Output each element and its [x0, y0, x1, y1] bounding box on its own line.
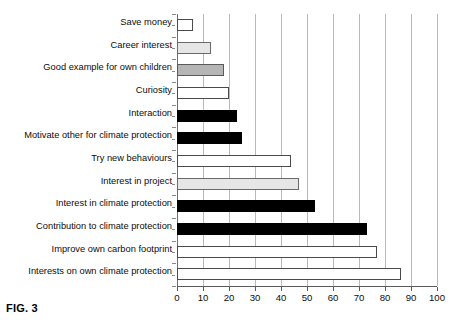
bar — [177, 42, 211, 54]
category-tick — [172, 14, 176, 15]
x-tick-80 — [385, 287, 386, 291]
x-tick-label-80: 80 — [380, 292, 391, 304]
category-minor-tick — [172, 139, 175, 140]
bar — [177, 178, 299, 190]
x-tick-50 — [307, 287, 308, 291]
x-tick-100 — [437, 287, 438, 291]
bar — [177, 246, 377, 258]
category-tick — [172, 127, 176, 128]
category-tick — [172, 173, 176, 174]
bar-row: Try new behaviours — [177, 150, 437, 173]
category-label: Interest in climate protection — [56, 197, 172, 210]
category-tick — [172, 195, 176, 196]
category-minor-tick — [172, 48, 175, 49]
bar-row: Interests on own climate protection — [177, 263, 437, 286]
x-tick-90 — [411, 287, 412, 291]
bar-row: Contribution to climate protection — [177, 218, 437, 241]
category-label: Career interest — [111, 39, 173, 52]
bar — [177, 155, 291, 167]
x-tick-label-60: 60 — [328, 292, 339, 304]
figure-page: Save moneyCareer interestGood example fo… — [0, 0, 452, 323]
category-tick — [172, 218, 176, 219]
bar-row: Good example for own children — [177, 59, 437, 82]
x-tick-label-30: 30 — [250, 292, 261, 304]
category-label: Improve own carbon footprint — [52, 243, 172, 256]
bar-chart: Save moneyCareer interestGood example fo… — [0, 0, 452, 300]
category-label: Interest in project — [101, 175, 172, 188]
category-tick — [172, 286, 176, 287]
category-minor-tick — [172, 184, 175, 185]
bar-row: Save money — [177, 14, 437, 37]
bar — [177, 87, 229, 99]
x-tick-60 — [333, 287, 334, 291]
bar-row: Motivate other for climate protection — [177, 127, 437, 150]
category-tick — [172, 59, 176, 60]
x-tick-label-90: 90 — [406, 292, 417, 304]
x-tick-label-10: 10 — [198, 292, 209, 304]
category-minor-tick — [172, 116, 175, 117]
category-label: Interaction — [129, 107, 172, 120]
bar — [177, 19, 193, 31]
figure-caption: FIG. 3 — [6, 302, 38, 314]
category-minor-tick — [172, 71, 175, 72]
bar — [177, 64, 224, 76]
category-tick — [172, 150, 176, 151]
bar-rows: Save moneyCareer interestGood example fo… — [177, 14, 437, 286]
x-tick-70 — [359, 287, 360, 291]
category-label: Save money — [120, 16, 172, 29]
category-minor-tick — [172, 207, 175, 208]
category-label: Motivate other for climate protection — [24, 129, 172, 142]
category-tick — [172, 105, 176, 106]
bar-row: Interaction — [177, 105, 437, 128]
x-tick-label-40: 40 — [276, 292, 287, 304]
bar — [177, 223, 367, 235]
x-tick-label-100: 100 — [429, 292, 445, 304]
x-tick-10 — [203, 287, 204, 291]
category-label: Contribution to climate protection — [36, 220, 172, 233]
category-minor-tick — [172, 25, 175, 26]
category-tick — [172, 241, 176, 242]
category-label: Curiosity — [136, 84, 172, 97]
bar — [177, 200, 315, 212]
gridline-100 — [437, 14, 438, 286]
x-tick-label-20: 20 — [224, 292, 235, 304]
category-minor-tick — [172, 252, 175, 253]
bar — [177, 268, 401, 280]
bar-row: Career interest — [177, 37, 437, 60]
category-minor-tick — [172, 275, 175, 276]
bar — [177, 132, 242, 144]
bar-row: Interest in project — [177, 173, 437, 196]
category-label: Good example for own children — [43, 61, 172, 74]
bar-row: Improve own carbon footprint — [177, 241, 437, 264]
bar — [177, 110, 237, 122]
x-axis: 0102030405060708090100 — [177, 286, 437, 293]
plot-area: Save moneyCareer interestGood example fo… — [177, 14, 437, 286]
x-tick-20 — [229, 287, 230, 291]
category-label: Interests on own climate protection — [28, 265, 172, 278]
bar-row: Interest in climate protection — [177, 195, 437, 218]
x-tick-40 — [281, 287, 282, 291]
category-tick — [172, 82, 176, 83]
x-tick-label-50: 50 — [302, 292, 313, 304]
category-minor-tick — [172, 229, 175, 230]
x-tick-label-0: 0 — [174, 292, 179, 304]
x-tick-label-70: 70 — [354, 292, 365, 304]
category-tick — [172, 263, 176, 264]
x-tick-0 — [177, 287, 178, 291]
bar-row: Curiosity — [177, 82, 437, 105]
x-tick-30 — [255, 287, 256, 291]
category-minor-tick — [172, 93, 175, 94]
category-label: Try new behaviours — [91, 152, 172, 165]
category-tick — [172, 37, 176, 38]
category-minor-tick — [172, 161, 175, 162]
